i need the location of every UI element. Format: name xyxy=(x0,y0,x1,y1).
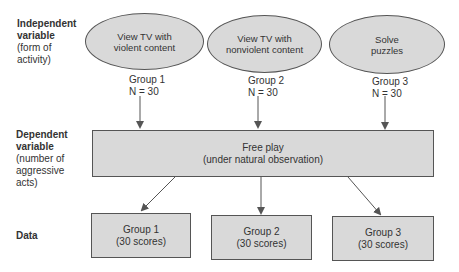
data-box-1-line-1: Group 1 xyxy=(123,224,159,236)
condition-ellipse-1: View TV with violent content xyxy=(85,13,204,70)
group-1-n: N = 30 xyxy=(129,86,165,98)
condition-ellipse-3: Solve puzzles xyxy=(329,15,445,74)
free-play-box: Free play (under natural observation) xyxy=(92,130,434,177)
data-box-group-3: Group 3 (30 scores) xyxy=(332,216,434,261)
group-3-info: Group 3 N = 30 xyxy=(372,76,408,100)
group-3-name: Group 3 xyxy=(372,76,408,88)
group-2-info: Group 2 N = 30 xyxy=(248,75,284,99)
group-3-n: N = 30 xyxy=(372,88,408,100)
data-box-2-line-2: (30 scores) xyxy=(236,238,286,250)
data-box-3-line-1: Group 3 xyxy=(365,227,401,239)
condition-2-line-1: View TV with xyxy=(237,33,292,44)
free-play-line-1: Free play xyxy=(242,142,284,154)
free-play-line-2: (under natural observation) xyxy=(203,154,323,166)
group-2-n: N = 30 xyxy=(248,87,284,99)
condition-2-line-2: nonviolent content xyxy=(226,44,303,55)
data-box-group-2: Group 2 (30 scores) xyxy=(211,215,312,260)
condition-3-line-2: puzzles xyxy=(371,45,403,56)
group-2-name: Group 2 xyxy=(248,75,284,87)
data-box-1-line-2: (30 scores) xyxy=(116,236,166,248)
condition-3-line-1: Solve xyxy=(375,34,399,45)
condition-1-line-1: View TV with xyxy=(117,31,172,42)
data-box-2-line-1: Group 2 xyxy=(243,226,279,238)
data-box-3-line-2: (30 scores) xyxy=(358,239,408,251)
group-1-info: Group 1 N = 30 xyxy=(129,74,165,98)
data-box-group-1: Group 1 (30 scores) xyxy=(91,213,191,258)
condition-ellipse-2: View TV with nonviolent content xyxy=(207,15,322,73)
condition-1-line-2: violent content xyxy=(114,42,175,53)
group-1-name: Group 1 xyxy=(129,74,165,86)
